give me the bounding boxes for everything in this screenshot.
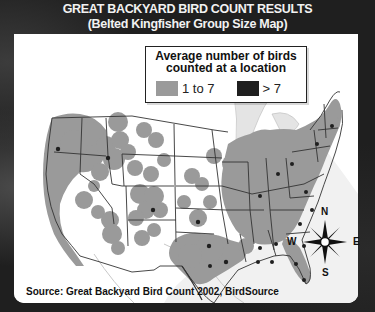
compass-north: N (321, 206, 328, 217)
legend-label-low: 1 to 7 (182, 81, 215, 96)
compass-east: E (353, 236, 360, 247)
legend-label-high: > 7 (263, 81, 281, 96)
compass-west: W (287, 236, 296, 247)
compass-rose-icon: N S W E (295, 212, 355, 272)
map-title: GREAT BACKYARD BIRD COUNT RESULTS (Belte… (0, 2, 375, 32)
legend-items: 1 to 7 > 7 (156, 81, 303, 96)
legend-swatch-low (156, 81, 178, 96)
title-subtitle: (Belted Kingfisher Group Size Map) (0, 17, 375, 32)
source-caption: Source: Great Backyard Bird Count 2002, … (26, 286, 279, 297)
legend-swatch-high (237, 81, 259, 96)
compass-south: S (322, 267, 329, 278)
map-legend: Average number of birds counted at a loc… (145, 46, 307, 103)
title-main: GREAT BACKYARD BIRD COUNT RESULTS (0, 2, 375, 17)
legend-title: Average number of birds counted at a loc… (146, 50, 306, 74)
